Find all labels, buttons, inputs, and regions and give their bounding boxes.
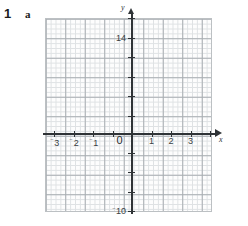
tick-digit: 10 <box>116 207 126 217</box>
x-tick-label-2: 2 <box>168 137 173 146</box>
tick-digit: 3 <box>188 136 193 146</box>
x-tick-label--1: ⁻1 <box>89 137 98 148</box>
x-tick-label--3: ⁻3 <box>50 137 59 148</box>
y-tick-label--10: ⁻10 <box>112 206 126 217</box>
y-axis-arrow-icon <box>128 8 134 14</box>
x-tick-label--2: ⁻2 <box>69 137 78 148</box>
y-axis-tick <box>128 18 135 19</box>
question-number: 1 <box>4 7 11 20</box>
y-axis-tick <box>128 77 135 78</box>
y-axis-line <box>131 14 133 214</box>
x-axis-label: x <box>219 136 223 144</box>
y-axis-tick <box>128 211 135 212</box>
y-axis-tick <box>128 96 135 97</box>
tick-digit: 14 <box>116 32 126 42</box>
tick-digit: 1 <box>149 136 154 146</box>
x-tick-label-0: 0 <box>116 135 122 146</box>
y-axis-tick <box>128 38 135 39</box>
y-tick-label-14: 14 <box>116 33 126 42</box>
x-axis-tick <box>210 131 211 138</box>
x-tick-label-1: 1 <box>149 137 154 146</box>
x-tick-label-3: 3 <box>188 137 193 146</box>
y-axis-tick <box>128 57 135 58</box>
x-axis-tick <box>113 131 114 138</box>
tick-digit: 1 <box>93 138 98 148</box>
coordinate-grid-graph[interactable]: x y ⁻3 ⁻2 ⁻1 0 1 2 3 14 ⁻10 <box>45 18 212 212</box>
tick-digit: 2 <box>168 136 173 146</box>
tick-digit: 2 <box>74 138 79 148</box>
y-axis-tick <box>128 192 135 193</box>
y-axis-label: y <box>121 4 125 12</box>
tick-digit: 0 <box>116 134 122 146</box>
tick-digit: 3 <box>54 138 59 148</box>
question-part-label: a <box>25 9 31 20</box>
y-axis-tick <box>128 153 135 154</box>
y-axis-tick <box>128 172 135 173</box>
y-axis-tick <box>128 116 135 117</box>
